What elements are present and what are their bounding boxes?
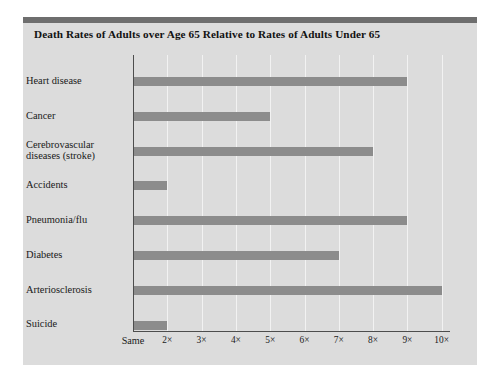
category-label-suicide: Suicide <box>26 318 128 330</box>
bar-accidents <box>133 181 167 190</box>
category-label-line: Cerebrovascular <box>26 139 128 151</box>
y-axis-line <box>133 55 134 332</box>
x-tick-label-4×: 4× <box>231 335 241 345</box>
page-root: Death Rates of Adults over Age 65 Relati… <box>0 0 495 380</box>
bar-suicide <box>133 321 167 330</box>
chart-panel: Death Rates of Adults over Age 65 Relati… <box>23 17 477 365</box>
category-label-line: Accidents <box>26 179 128 191</box>
bar-cerebrovascular-diseases-stroke <box>133 147 373 156</box>
x-tick-label-5×: 5× <box>265 335 275 345</box>
category-label-line: Diabetes <box>26 249 128 261</box>
category-label-heart-disease: Heart disease <box>26 75 128 87</box>
x-tick-label-Same: Same <box>122 335 145 346</box>
category-label-line: diseases (stroke) <box>26 150 128 162</box>
x-tick-label-7×: 7× <box>334 335 344 345</box>
category-label-line: Cancer <box>26 110 128 122</box>
gridline-10× <box>442 55 443 331</box>
category-label-diabetes: Diabetes <box>26 249 128 261</box>
x-tick-label-9×: 9× <box>402 335 412 345</box>
bar-heart-disease <box>133 77 407 86</box>
category-label-cerebrovascular-diseases-stroke: Cerebrovasculardiseases (stroke) <box>26 139 128 162</box>
x-tick-label-2×: 2× <box>162 335 172 345</box>
x-tick-label-8×: 8× <box>368 335 378 345</box>
category-label-line: Suicide <box>26 318 128 330</box>
category-label-line: Arteriosclerosis <box>26 284 128 296</box>
bar-cancer <box>133 112 270 121</box>
bar-arteriosclerosis <box>133 286 442 295</box>
category-label-accidents: Accidents <box>26 179 128 191</box>
plot-area: Heart diseaseCancerCerebrovasculardiseas… <box>23 17 477 365</box>
category-label-line: Heart disease <box>26 75 128 87</box>
category-label-pneumonia-flu: Pneumonia/flu <box>26 214 128 226</box>
x-tick-label-6×: 6× <box>300 335 310 345</box>
x-axis-line <box>133 331 450 332</box>
bar-diabetes <box>133 251 339 260</box>
x-tick-label-3×: 3× <box>197 335 207 345</box>
x-tick-label-10×: 10× <box>434 335 449 345</box>
category-label-arteriosclerosis: Arteriosclerosis <box>26 284 128 296</box>
category-label-cancer: Cancer <box>26 110 128 122</box>
bar-pneumonia-flu <box>133 216 407 225</box>
category-label-line: Pneumonia/flu <box>26 214 128 226</box>
